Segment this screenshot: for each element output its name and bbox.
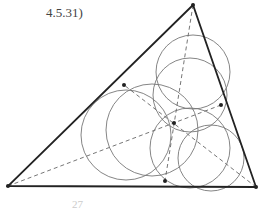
midpoint-BC bbox=[163, 179, 167, 183]
inscribed-circles bbox=[81, 35, 244, 191]
circle-3 bbox=[81, 90, 171, 180]
vertex-C bbox=[254, 185, 258, 189]
points bbox=[6, 3, 258, 189]
triangle bbox=[8, 5, 256, 187]
median-from-B bbox=[8, 105, 221, 186]
midpoint-AC bbox=[219, 103, 223, 107]
median-from-C bbox=[124, 85, 256, 187]
vertex-A bbox=[191, 3, 195, 7]
midpoint-AB bbox=[122, 83, 126, 87]
geometry-diagram bbox=[0, 0, 265, 208]
vertex-B bbox=[6, 184, 10, 188]
centroid bbox=[172, 121, 176, 125]
circle-5 bbox=[150, 108, 230, 188]
medians bbox=[8, 5, 256, 187]
